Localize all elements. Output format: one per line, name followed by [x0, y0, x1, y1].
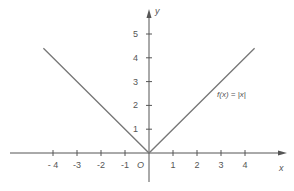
y-axis-arrow-icon [147, 9, 152, 18]
y-axis-label: y [154, 6, 160, 16]
x-tick-label: - 4 [48, 160, 59, 170]
origin-label: O [137, 160, 144, 170]
function-label: f(x) = |x| [217, 90, 246, 99]
x-axis-arrow-icon [278, 151, 287, 156]
x-tick-label: 4 [242, 160, 247, 170]
x-tick-label: 3 [218, 160, 223, 170]
y-tick-label: 5 [133, 29, 138, 39]
abs-value-graph: - 4-3-2-1123412345 x y O f(x) = |x| [0, 0, 294, 191]
x-tick-label: -1 [121, 160, 129, 170]
y-tick-label: 3 [133, 77, 138, 87]
labels: x y O f(x) = |x| [137, 6, 284, 173]
y-tick-label: 2 [133, 100, 138, 110]
x-tick-label: -3 [73, 160, 81, 170]
y-tick-label: 1 [133, 124, 138, 134]
x-tick-label: -2 [97, 160, 105, 170]
x-tick-label: 2 [194, 160, 199, 170]
x-axis-label: x [278, 163, 284, 173]
x-tick-label: 1 [170, 160, 175, 170]
ticks: - 4-3-2-1123412345 [48, 29, 248, 170]
y-tick-label: 4 [133, 53, 138, 63]
